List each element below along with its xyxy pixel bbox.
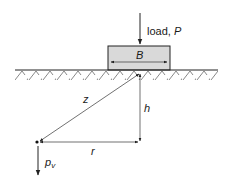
stress-label: pv bbox=[44, 156, 56, 170]
stress-point bbox=[35, 140, 38, 143]
slant-distance-label: z bbox=[82, 93, 89, 105]
width-label: B bbox=[136, 49, 143, 61]
slant-distance-arrow bbox=[40, 74, 139, 141]
load-label: load, P bbox=[147, 25, 182, 37]
radial-distance-label: r bbox=[91, 145, 96, 157]
stress-distribution-diagram: load, P B h z r pv bbox=[0, 0, 232, 187]
depth-label: h bbox=[144, 102, 150, 114]
soil-hatching bbox=[15, 71, 218, 81]
